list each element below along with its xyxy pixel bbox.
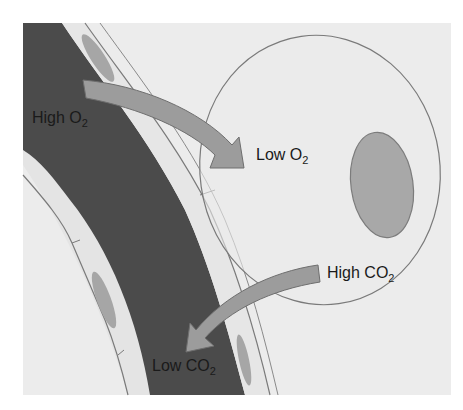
gas-exchange-diagram (0, 0, 463, 410)
label-high-co2-text: High CO (327, 264, 388, 281)
label-low-o2-text: Low O (256, 146, 302, 163)
label-high-co2-sub: 2 (388, 272, 394, 284)
label-high-o2-text: High O (32, 109, 82, 126)
label-low-co2-text: Low CO (152, 357, 210, 374)
label-low-co2: Low CO2 (152, 358, 216, 374)
label-high-co2: High CO2 (327, 265, 394, 281)
label-low-o2-sub: 2 (302, 154, 308, 166)
label-high-o2-sub: 2 (82, 117, 88, 129)
label-low-o2: Low O2 (256, 147, 308, 163)
label-high-o2: High O2 (32, 110, 88, 126)
label-low-co2-sub: 2 (210, 365, 216, 377)
